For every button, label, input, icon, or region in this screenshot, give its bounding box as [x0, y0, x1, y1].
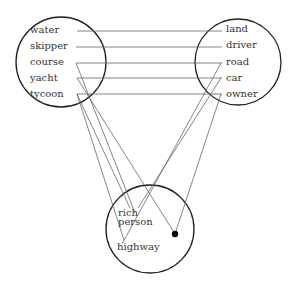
word-road: road	[226, 56, 249, 68]
highway-dot	[172, 231, 178, 237]
line-car-rich	[138, 78, 221, 208]
word-highway: highway	[117, 241, 160, 253]
word-land: land	[226, 23, 248, 35]
connection-lines	[76, 31, 222, 244]
word-course: course	[30, 56, 64, 68]
line-course-rich	[76, 63, 135, 213]
word-water: water	[30, 24, 59, 36]
word-driver: driver	[226, 39, 257, 51]
word-tycoon: tycoon	[30, 88, 64, 100]
word-yacht: yacht	[30, 72, 58, 84]
line-owner-dot	[175, 94, 221, 234]
word-person: person	[118, 216, 153, 228]
word-owner: owner	[226, 88, 258, 100]
line-tycoon-rich	[77, 94, 130, 208]
word-car: car	[226, 72, 242, 84]
word-skipper: skipper	[30, 40, 68, 52]
bottom-circle	[106, 185, 194, 273]
